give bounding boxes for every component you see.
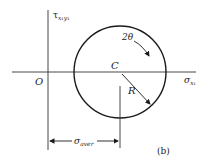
origin-label: O	[35, 76, 43, 87]
angle-label: 2θ	[121, 32, 134, 42]
center-label: C	[111, 60, 119, 71]
radius-label: R	[127, 85, 136, 96]
mohr-circle-diagram: τx₁y₁ σx₁ O C R 2θ σaver (b)	[0, 0, 214, 164]
panel-label: (b)	[157, 146, 170, 156]
tau-axis-label: τx₁y₁	[53, 10, 70, 22]
sigma-aver-label: σaver	[74, 136, 95, 147]
angle-arrow	[134, 41, 149, 56]
radius-arrow	[122, 74, 150, 104]
sigma-axis-label: σx₁	[184, 75, 196, 86]
